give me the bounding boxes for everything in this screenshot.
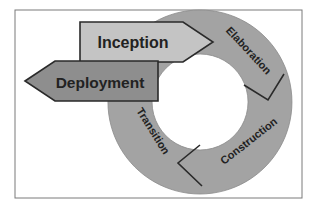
deployment-label: Deployment [56, 74, 145, 91]
inception-label: Inception [97, 34, 168, 51]
lifecycle-diagram: Inception Deployment Elaboration Constru… [0, 0, 313, 205]
